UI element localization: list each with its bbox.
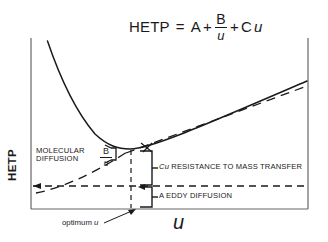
b-over-u-annotation: B u [98,147,114,168]
b-over-u-numerator: B [103,147,109,156]
equation-term-a: A [191,19,201,35]
b-over-u-fraction: B u [100,147,112,168]
eddy-diffusion-bracket [140,187,152,207]
equation-fraction-b-over-u: B u [215,12,227,42]
cu-resistance-text: RESISTANCE TO MASS TRANSFER [169,162,302,171]
hetp-equation: HETP = A + B u + C u [128,12,264,42]
optimum-u-symbol: u [94,218,98,227]
b-over-u-denominator: u [104,159,109,168]
x-axis-label: u [173,212,184,233]
equation-plus-first: + [203,19,212,35]
optimum-u-text: optimum [62,218,94,227]
equation-term-u: u [254,19,263,35]
fraction-denominator-u: u [217,29,224,42]
fraction-numerator-b: B [216,12,226,26]
a-level-arrow-head [33,183,41,189]
y-axis-label: HETP [6,142,18,188]
equation-plus-second: + [230,19,239,35]
hetp-curve [48,41,308,149]
cu-resistance-symbol: Cu [159,162,169,171]
van-deemter-plot-figure: HETP = A + B u + C u HETP u MOLECULAR DI… [0,0,328,242]
molecular-diffusion-line-2: DIFFUSION [36,155,85,163]
optimum-u-annotation: optimum u [62,219,98,227]
molecular-diffusion-annotation: MOLECULAR DIFFUSION [36,147,85,163]
cu-resistance-annotation: Cu RESISTANCE TO MASS TRANSFER [159,163,302,171]
eddy-diffusion-annotation: A EDDY DIFFUSION [159,192,232,200]
equation-term-c: C [241,19,252,35]
equation-equals-sign: = [176,19,185,35]
cu-resistance-bracket [140,151,152,185]
equation-lhs: HETP [129,19,170,35]
